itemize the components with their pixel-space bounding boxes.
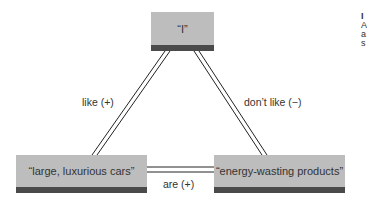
edge-cars-products: [147, 167, 214, 172]
node-products-stripe: [214, 187, 345, 193]
edge-label-like: like (+): [82, 96, 114, 108]
node-products-label: “energy-wasting products”: [214, 155, 345, 187]
cropped-text-line-4: s: [361, 39, 366, 48]
node-cars: “large, luxurious cars”: [16, 155, 147, 193]
node-self-stripe: [151, 45, 214, 51]
node-self: “I”: [151, 12, 214, 51]
edge-label-dont-like: don’t like (−): [244, 96, 301, 108]
node-self-label: “I”: [151, 12, 214, 45]
node-cars-stripe: [16, 187, 147, 193]
edge-label-are: are (+): [163, 178, 194, 190]
node-products: “energy-wasting products”: [214, 155, 345, 193]
node-cars-label: “large, luxurious cars”: [16, 155, 147, 187]
